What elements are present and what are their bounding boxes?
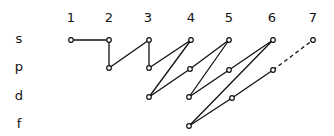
node-5s: [227, 38, 232, 43]
node-5p: [227, 68, 232, 73]
node-3s: [147, 38, 152, 43]
edge-3p-4s: [149, 40, 191, 68]
node-4d: [187, 95, 192, 100]
edge-5s-4d: [189, 40, 229, 97]
node-2p: [107, 66, 112, 71]
edge-5p-6s: [229, 40, 273, 70]
edge-4s-3d: [149, 40, 191, 97]
node-3p: [147, 66, 152, 71]
edge-4p-5s: [190, 40, 229, 69]
node-6p: [271, 68, 276, 73]
orbital-filling-graph: [0, 0, 334, 136]
node-4f: [187, 124, 192, 129]
node-5d: [230, 96, 235, 101]
node-4s: [189, 38, 194, 43]
node-1s: [69, 38, 74, 43]
node-6s: [271, 38, 276, 43]
node-4p: [188, 67, 193, 72]
node-2s: [107, 38, 112, 43]
edge-6s-4f: [189, 40, 273, 126]
edge-4d-5p: [189, 70, 229, 97]
edge-4f-5d: [189, 98, 232, 126]
edge-2p-3s: [109, 40, 149, 68]
edge-6p-7s: [273, 40, 313, 70]
edge-5d-6p: [232, 70, 273, 98]
node-3d: [147, 95, 152, 100]
node-7s: [311, 38, 316, 43]
edge-3d-4p: [149, 69, 190, 97]
